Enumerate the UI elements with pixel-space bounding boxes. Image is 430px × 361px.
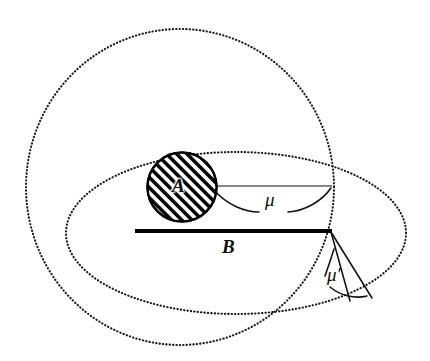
label-a: A bbox=[172, 176, 185, 195]
arc-mu-right-segment bbox=[288, 188, 331, 212]
arc-mu-left-segment bbox=[214, 190, 259, 212]
figure-canvas: A B μ μ′ bbox=[0, 0, 430, 361]
label-mu-prime: μ′ bbox=[327, 265, 341, 284]
label-b: B bbox=[222, 237, 235, 256]
diagram-svg bbox=[0, 0, 430, 361]
label-mu: μ bbox=[265, 190, 275, 209]
